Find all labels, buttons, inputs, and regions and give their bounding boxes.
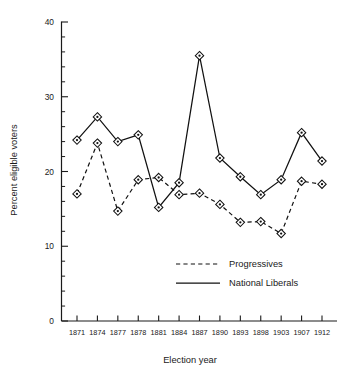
election-participation-line-chart: 010203040 187118741877187818811884188718… [0,0,348,371]
y-tick-label: 40 [45,17,55,27]
y-axis-title: Percent eligible voters [9,124,19,216]
x-tick-label: 1877 [110,328,126,337]
data-point-center [178,194,180,196]
x-tick-label: 1871 [69,328,85,337]
data-point-center [198,192,200,194]
legend-label: National Liberals [229,278,299,288]
x-tick-label: 1907 [293,328,309,337]
data-point-center [300,180,302,182]
x-tick-label: 1881 [151,328,167,337]
x-axis-title: Election year [163,355,217,365]
data-point-center [260,194,262,196]
data-point-center [260,220,262,222]
data-point-center [96,116,98,118]
data-point-center [239,221,241,223]
data-point-center [158,206,160,208]
y-tick-label: 20 [45,167,55,177]
data-point-center [198,54,200,56]
x-tick-label: 1893 [232,328,248,337]
x-tick-label: 1878 [130,328,146,337]
data-point-center [219,157,221,159]
x-tick-label: 1884 [171,328,187,337]
data-point-center [117,140,119,142]
data-point-center [280,232,282,234]
chart-container: 010203040 187118741877187818811884188718… [0,0,348,371]
data-point-center [96,142,98,144]
data-point-center [158,176,160,178]
data-point-center [117,210,119,212]
x-tick-label: 1912 [314,328,330,337]
data-point-center [219,203,221,205]
x-tick-label: 1890 [212,328,228,337]
data-point-center [300,131,302,133]
data-point-center [178,182,180,184]
data-point-center [137,134,139,136]
data-point-center [321,160,323,162]
data-point-center [137,179,139,181]
data-point-center [321,183,323,185]
x-tick-label: 1903 [273,328,289,337]
data-point-center [239,176,241,178]
y-tick-label: 0 [49,316,54,326]
data-point-center [76,193,78,195]
data-point-center [76,139,78,141]
x-tick-label: 1874 [89,328,105,337]
legend-label: Progressives [229,259,283,269]
x-tick-label: 1887 [191,328,207,337]
y-tick-label: 10 [45,241,55,251]
y-tick-label: 30 [45,92,55,102]
data-point-center [280,179,282,181]
x-tick-label: 1898 [253,328,269,337]
